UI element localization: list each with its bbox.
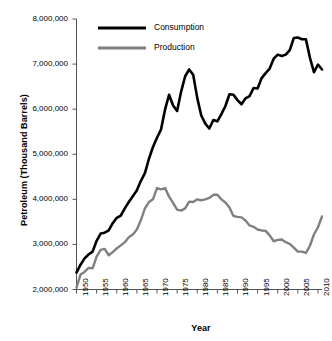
y-tick-label: 8,000,000 xyxy=(12,14,68,23)
x-tick-label: 1990 xyxy=(241,266,250,296)
y-tick-marks xyxy=(73,19,77,290)
x-tick-label: 1960 xyxy=(121,266,130,296)
x-tick-label: 1995 xyxy=(262,266,271,296)
x-tick-label: 2005 xyxy=(302,266,311,296)
x-tick-label: 1975 xyxy=(181,266,190,296)
x-tick-label: 1950 xyxy=(81,266,90,296)
y-tick-label: 7,000,000 xyxy=(12,59,68,68)
legend-swatches xyxy=(98,28,146,48)
legend-label-consumption: Consumption xyxy=(154,22,204,32)
y-axis-title: Petroleum (Thousand Barrels) xyxy=(19,80,29,240)
x-tick-label: 1965 xyxy=(141,266,150,296)
y-tick-label: 3,000,000 xyxy=(12,239,68,248)
axis-lines xyxy=(77,19,323,290)
y-tick-label: 2,000,000 xyxy=(12,285,68,294)
legend-label-production: Production xyxy=(154,42,195,52)
petroleum-line-chart: 2,000,0003,000,0004,000,0005,000,0006,00… xyxy=(0,0,332,341)
data-series-group xyxy=(77,37,323,287)
x-tick-label: 1985 xyxy=(221,266,230,296)
x-tick-label: 2000 xyxy=(282,266,291,296)
x-tick-label: 1970 xyxy=(161,266,170,296)
series-line-consumption xyxy=(77,37,323,272)
x-tick-label: 1955 xyxy=(101,266,110,296)
x-tick-label: 1980 xyxy=(201,266,210,296)
x-tick-label: 2010 xyxy=(322,266,331,296)
x-axis-title: Year xyxy=(76,323,326,333)
